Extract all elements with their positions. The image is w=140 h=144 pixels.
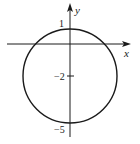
x-axis — [7, 41, 131, 47]
y-axis-label: y — [74, 4, 80, 16]
label-center-minus-2: −2 — [54, 71, 65, 82]
y-axis — [67, 3, 73, 137]
circle-diagram: y x 1 −2 −5 — [0, 0, 140, 144]
label-bottom-minus-5: −5 — [54, 124, 65, 135]
label-top-1: 1 — [59, 18, 64, 29]
x-axis-label: x — [123, 47, 129, 59]
